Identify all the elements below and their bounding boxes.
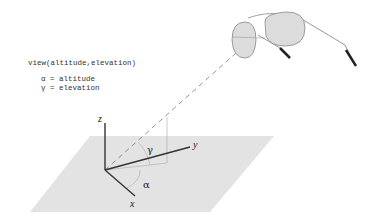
- diagram-canvas: [0, 0, 365, 223]
- z-axis-label: z: [98, 114, 102, 124]
- alpha-definition: α = altitude: [41, 75, 95, 84]
- gamma-definition: γ = elevation: [41, 84, 100, 93]
- temple-right: [300, 18, 355, 65]
- y-axis-label: y: [193, 140, 197, 150]
- view-diagram: view(altitude,elevation) α = altitude γ …: [0, 0, 365, 223]
- x-axis-label: x: [130, 199, 134, 209]
- sunglasses-illustration: [232, 12, 356, 66]
- view-function-call: view(altitude,elevation): [28, 59, 136, 68]
- alpha-label: α: [143, 180, 150, 190]
- gamma-label: γ: [147, 145, 153, 155]
- lens-left: [232, 22, 256, 58]
- lens-right: [265, 12, 305, 46]
